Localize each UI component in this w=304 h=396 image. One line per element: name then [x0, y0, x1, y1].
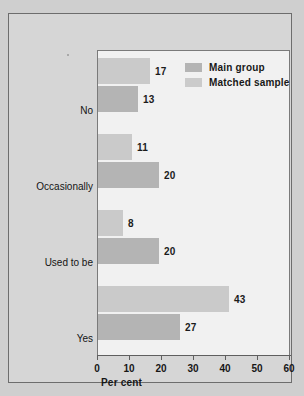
plot-inner: 17 13 11 20 8 20 43 27: [98, 51, 289, 355]
x-axis-label-20: 20: [155, 363, 166, 374]
bar-value-no-matched-sample: 17: [155, 66, 167, 77]
bar-no-main-group: [98, 86, 138, 112]
bar-occasionally-main-group: [98, 162, 159, 188]
x-axis-tick-40: [225, 355, 226, 360]
x-axis-tick-60: [289, 355, 290, 360]
category-label-occasionally: Occasionally: [36, 181, 93, 192]
x-axis-label-10: 10: [123, 363, 134, 374]
bar-value-used-to-be-matched-sample: 8: [128, 218, 134, 229]
legend-label-matched-sample: Matched sample: [209, 77, 290, 88]
x-axis-tick-30: [193, 355, 194, 360]
x-axis-tick-20: [161, 355, 162, 360]
x-axis-line: [97, 355, 291, 356]
legend-item-matched-sample: Matched sample: [185, 77, 290, 88]
bar-occasionally-matched-sample: [98, 134, 132, 160]
bar-value-occasionally-matched-sample: 11: [137, 142, 148, 153]
category-axis-labels: No Occasionally Used to be Yes: [9, 50, 93, 355]
x-axis-label-60: 60: [283, 363, 294, 374]
category-label-used-to-be: Used to be: [45, 257, 93, 268]
category-label-no: No: [80, 105, 93, 116]
bar-value-no-main-group: 13: [143, 94, 155, 105]
figure-frame: No Occasionally Used to be Yes 17 13 11 …: [8, 13, 292, 383]
x-axis-label-50: 50: [251, 363, 262, 374]
legend-item-main-group: Main group: [185, 62, 265, 73]
x-axis-label-0: 0: [94, 363, 100, 374]
bar-yes-main-group: [98, 314, 180, 340]
bar-yes-matched-sample: [98, 286, 229, 312]
legend-swatch-main-group-icon: [185, 63, 202, 72]
x-axis-tick-0: [97, 355, 98, 360]
plot-area: 17 13 11 20 8 20 43 27: [97, 50, 290, 355]
x-axis-label-30: 30: [187, 363, 198, 374]
legend-label-main-group: Main group: [209, 62, 265, 73]
bar-value-yes-matched-sample: 43: [234, 294, 246, 305]
bar-used-to-be-main-group: [98, 238, 159, 264]
bar-chart-figure: No Occasionally Used to be Yes 17 13 11 …: [0, 0, 304, 396]
x-axis-title: Per cent: [101, 377, 142, 388]
category-label-yes: Yes: [77, 333, 93, 344]
x-axis-tick-50: [257, 355, 258, 360]
bar-value-yes-main-group: 27: [185, 322, 197, 333]
x-axis-tick-10: [129, 355, 130, 360]
bar-value-used-to-be-main-group: 20: [164, 246, 176, 257]
bar-no-matched-sample: [98, 58, 150, 84]
legend-swatch-matched-sample-icon: [185, 78, 202, 87]
bar-used-to-be-matched-sample: [98, 210, 123, 236]
x-axis-label-40: 40: [219, 363, 230, 374]
bar-value-occasionally-main-group: 20: [164, 170, 176, 181]
